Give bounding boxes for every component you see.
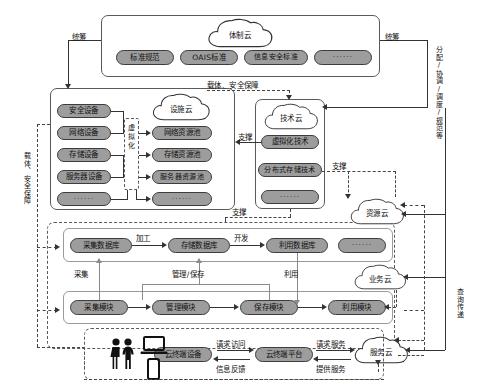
technology-cloud: 技术云 xyxy=(262,103,320,130)
node-distributed-storage-tech[interactable]: 分布式存储技术 xyxy=(258,163,322,177)
node-pool-more[interactable]: ······ xyxy=(152,192,212,206)
node-security-device[interactable]: 安全设备 xyxy=(57,104,111,118)
overall-label-left: 统筹 xyxy=(72,31,87,42)
node-storage-device[interactable]: 存储设备 xyxy=(57,148,111,162)
institution-cloud: 体制云 xyxy=(205,18,275,48)
node-institution-more[interactable]: ······ xyxy=(314,50,372,65)
node-standard-spec[interactable]: 标准规范 xyxy=(116,50,174,65)
node-collect-module[interactable]: 采集模块 xyxy=(70,300,128,315)
info-feedback-label: 信息反馈 xyxy=(216,363,246,374)
node-collect-db[interactable]: 采集数据库 xyxy=(70,238,132,253)
institution-cloud-label: 体制云 xyxy=(229,29,251,40)
infrastructure-cloud-label: 设施云 xyxy=(170,103,192,114)
node-network-pool[interactable]: 网络资源池 xyxy=(152,126,212,140)
manage-preserve-label: 管理/保存 xyxy=(172,268,205,279)
business-cloud: 业务云 xyxy=(352,264,408,290)
node-technology-more[interactable]: ······ xyxy=(261,190,319,204)
node-virtualization-tech[interactable]: 虚拟化技术 xyxy=(261,135,319,149)
node-storage-db[interactable]: 存储数据库 xyxy=(168,238,230,253)
node-preserve-module[interactable]: 保存模块 xyxy=(240,300,298,315)
node-server-device[interactable]: 服务器设备 xyxy=(57,170,111,184)
node-manage-module[interactable]: 管理模块 xyxy=(152,300,210,315)
carrier-label-left: 载体、安全保障 xyxy=(22,152,32,205)
allocation-label-right: 分配/协调/调度/规范等 xyxy=(434,46,444,139)
process-label: 加工 xyxy=(136,232,151,243)
node-infosec-standard[interactable]: 信息安全标准 xyxy=(244,50,308,65)
request-access-label: 请求访问 xyxy=(216,338,246,349)
service-cloud-label: 服务云 xyxy=(370,346,392,357)
smartphone-icon xyxy=(147,358,160,380)
laptop-icon xyxy=(140,336,168,356)
resource-cloud-label: 资源云 xyxy=(366,207,388,218)
node-cloud-terminal-platform[interactable]: 云终端平台 xyxy=(255,347,313,362)
resource-cloud: 资源云 xyxy=(348,198,406,225)
node-device-more[interactable]: ······ xyxy=(57,192,111,206)
node-server-pool[interactable]: 服务器资源池 xyxy=(152,170,212,184)
request-service-label: 请求服务 xyxy=(316,338,346,349)
support-label-bottom: 支撑 xyxy=(232,206,247,217)
technology-cloud-label: 技术云 xyxy=(280,112,302,123)
people-icon xyxy=(108,337,138,371)
virtualization-label: 虚拟化 xyxy=(126,124,136,151)
query-label-right: 查询传递 xyxy=(455,288,465,318)
infrastructure-cloud: 设施云 xyxy=(150,93,212,121)
carrier-label-top: 载体、安全保障 xyxy=(207,79,259,90)
node-utilize-module[interactable]: 利用模块 xyxy=(328,300,386,315)
utilize-label: 利用 xyxy=(284,268,299,279)
support-label-lower: 支撑 xyxy=(332,160,347,171)
business-cloud-label: 业务云 xyxy=(369,273,391,284)
develop-label: 开发 xyxy=(234,232,249,243)
node-database-more[interactable]: ······ xyxy=(338,238,386,253)
node-utilize-db[interactable]: 利用数据库 xyxy=(266,238,328,253)
overall-label-right: 统筹 xyxy=(385,31,400,42)
support-label-mid: 支撑 xyxy=(238,131,253,142)
node-storage-pool[interactable]: 存储资源池 xyxy=(152,148,212,162)
collect-label: 采集 xyxy=(74,268,89,279)
architecture-diagram: 体制云 标准规范 OAIS标准 信息安全标准 ······ 设施云 安全设备 网… xyxy=(0,0,480,392)
provide-service-label: 提供服务 xyxy=(316,363,346,374)
node-oais-standard[interactable]: OAIS标准 xyxy=(180,50,238,65)
node-network-device[interactable]: 网络设备 xyxy=(57,126,111,140)
